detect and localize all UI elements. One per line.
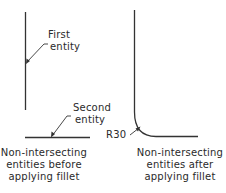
- after-fillet-group: R30 Non-intersecting entities after appl…: [106, 10, 223, 182]
- radius-leader: [130, 127, 141, 136]
- first-entity-leader: [26, 44, 48, 64]
- second-entity-label-line2: entity: [75, 114, 105, 125]
- before-caption-line2: entities before: [6, 159, 82, 170]
- second-entity-label-line1: Second: [73, 102, 111, 113]
- before-caption-line3: applying fillet: [8, 171, 79, 182]
- filleted-corner-path: [135, 10, 199, 137]
- radius-label: R30: [106, 129, 126, 140]
- before-caption-line1: Non-intersecting: [1, 147, 87, 158]
- second-entity-leader: [51, 116, 71, 138]
- after-caption-line2: entities after: [147, 159, 215, 170]
- first-entity-label-line1: First: [48, 29, 70, 40]
- fillet-diagram: First entity Second entity Non-intersect…: [0, 0, 226, 193]
- before-fillet-group: First entity Second entity Non-intersect…: [1, 12, 111, 182]
- first-entity-label-line2: entity: [50, 41, 80, 52]
- after-caption-line3: applying fillet: [144, 171, 215, 182]
- after-caption-line1: Non-intersecting: [137, 147, 223, 158]
